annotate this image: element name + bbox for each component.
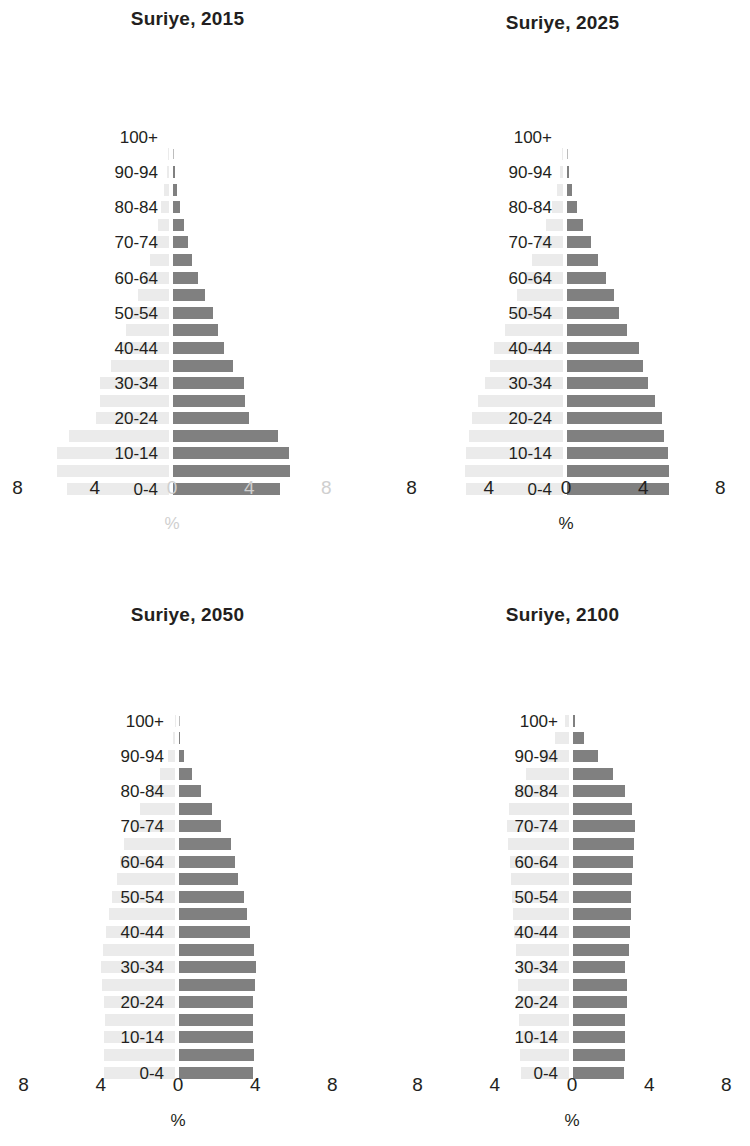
bar-male <box>173 289 205 301</box>
bar-male <box>179 908 247 920</box>
pyramid-row: 100+ <box>0 712 375 730</box>
pyramid-row <box>375 286 750 304</box>
age-group-label: 80-84 <box>115 199 158 216</box>
pyramid-row: 80-84 <box>0 782 375 800</box>
x-axis-tick: 4 <box>250 1075 261 1094</box>
pyramid-panel-2015: Suriye, 2015100+90-9480-8470-7460-6450-5… <box>0 0 375 573</box>
bar-male <box>573 820 635 832</box>
bar-male <box>179 750 184 762</box>
bar-male <box>173 307 213 319</box>
age-group-label: 40-44 <box>509 339 552 356</box>
age-group-label: 40-44 <box>115 339 158 356</box>
bar-female <box>526 768 569 780</box>
x-axis-tick: 8 <box>12 478 23 497</box>
age-group-label: 0-4 <box>527 480 552 497</box>
age-group-label: 60-64 <box>121 853 164 870</box>
age-group-label: 70-74 <box>509 234 552 251</box>
pyramid-row <box>375 1011 750 1029</box>
age-group-label: 30-34 <box>509 375 552 392</box>
chart-title: Suriye, 2100 <box>375 604 750 626</box>
pyramid-panel-2050: Suriye, 2050100+90-9480-8470-7460-6450-5… <box>0 573 375 1146</box>
bar-male <box>173 377 244 389</box>
bar-male <box>179 926 250 938</box>
age-group-label: 90-94 <box>115 163 158 180</box>
x-axis-tick: 0 <box>561 478 572 497</box>
x-axis-tick: 8 <box>327 1075 338 1094</box>
bar-female <box>555 732 569 744</box>
pyramid-row: 20-24 <box>375 994 750 1012</box>
bar-male <box>567 272 606 284</box>
age-group-label: 60-64 <box>115 269 158 286</box>
bar-male <box>567 395 655 407</box>
bar-male <box>173 272 198 284</box>
age-group-label: 60-64 <box>515 853 558 870</box>
pyramid-row <box>0 1046 375 1064</box>
x-axis-tick: 4 <box>644 1075 655 1094</box>
bar-male <box>573 961 625 973</box>
x-axis-tick: 0 <box>173 1075 184 1094</box>
bar-female <box>562 148 563 160</box>
pyramid-row <box>0 251 375 269</box>
pyramid-row <box>0 906 375 924</box>
bar-female <box>173 732 175 744</box>
bar-female <box>126 324 169 336</box>
pyramid-row <box>375 427 750 445</box>
bar-female <box>160 768 175 780</box>
pyramid-row: 80-84 <box>375 198 750 216</box>
bar-male <box>173 465 290 477</box>
pyramid-row <box>0 800 375 818</box>
pyramid-row: 70-74 <box>0 818 375 836</box>
bar-male <box>567 324 627 336</box>
bar-male <box>179 768 192 780</box>
bar-male <box>573 732 584 744</box>
bar-male <box>567 219 583 231</box>
pyramid-row <box>0 1011 375 1029</box>
x-axis-tick: 4 <box>490 1075 501 1094</box>
age-group-label: 100+ <box>514 128 552 145</box>
pyramid-row <box>375 357 750 375</box>
pyramid-row: 70-74 <box>375 234 750 252</box>
pyramid-row <box>375 146 750 164</box>
pyramid-row: 100+ <box>0 128 375 146</box>
pyramid-row <box>375 730 750 748</box>
x-axis-tick: 8 <box>721 1075 732 1094</box>
pyramid-row: 90-94 <box>375 747 750 765</box>
bar-female <box>103 944 175 956</box>
age-group-label: 70-74 <box>121 818 164 835</box>
pyramid-row <box>375 181 750 199</box>
pyramid-row: 60-64 <box>375 269 750 287</box>
bar-male <box>567 377 648 389</box>
pyramid-row: 60-64 <box>0 853 375 871</box>
bar-female <box>517 289 563 301</box>
x-axis-tick: 0 <box>167 478 178 497</box>
bar-female <box>490 360 563 372</box>
pyramid-row: 50-54 <box>0 888 375 906</box>
x-axis-tick: 8 <box>412 1075 423 1094</box>
bar-female <box>111 360 169 372</box>
pyramid-row: 20-24 <box>0 994 375 1012</box>
chart-title: Suriye, 2050 <box>0 604 375 626</box>
bar-male <box>173 412 249 424</box>
x-axis-unit-label: % <box>558 515 573 532</box>
bar-female <box>57 465 169 477</box>
bar-male <box>573 838 634 850</box>
x-axis-tick: 4 <box>96 1075 107 1094</box>
bar-female <box>508 838 569 850</box>
age-group-label: 90-94 <box>515 747 558 764</box>
x-axis-tick: 0 <box>567 1075 578 1094</box>
bar-male <box>567 447 668 459</box>
bar-male <box>573 768 613 780</box>
bar-male <box>567 201 577 213</box>
pyramid-row <box>0 427 375 445</box>
bar-female <box>552 201 563 213</box>
pyramid-row: 70-74 <box>375 818 750 836</box>
bar-male <box>567 254 598 266</box>
age-group-label: 20-24 <box>115 410 158 427</box>
bar-female <box>511 873 569 885</box>
age-group-label: 70-74 <box>515 818 558 835</box>
bar-male <box>173 166 175 178</box>
bar-female <box>469 430 563 442</box>
pyramid-row <box>375 216 750 234</box>
bar-male <box>179 873 238 885</box>
bar-male <box>173 360 233 372</box>
